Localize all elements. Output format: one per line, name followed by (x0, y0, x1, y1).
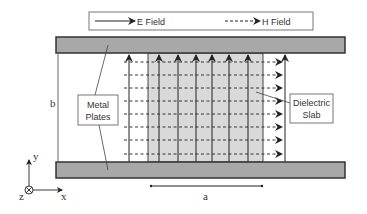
legend: E Field H Field (89, 12, 313, 30)
e-field-legend-label: E Field (137, 17, 165, 27)
y-axis-label: y (33, 150, 39, 162)
metal-plates-label-1: Metal (87, 100, 109, 110)
metal-plates-callout: Metal Plates (78, 45, 118, 170)
dimension-a-label: a (203, 190, 208, 202)
dielectric-slab (148, 53, 263, 162)
dielectric-slab-callout: Dielectric Slab (256, 92, 333, 123)
top-metal-plate (56, 37, 345, 53)
dimension-b: b (50, 54, 58, 161)
x-axis-label: x (61, 190, 67, 202)
h-field-legend-label: H Field (262, 17, 291, 27)
dielectric-label-1: Dielectric (293, 98, 331, 108)
bottom-metal-plate (56, 162, 345, 178)
dimension-b-label: b (50, 97, 56, 109)
waveguide-diagram: E Field H Field Metal Plates (0, 0, 367, 214)
metal-plates-label-2: Plates (85, 112, 111, 122)
dimension-a: a (150, 185, 263, 202)
dielectric-label-2: Slab (302, 110, 320, 120)
z-axis-label: z (19, 190, 24, 202)
